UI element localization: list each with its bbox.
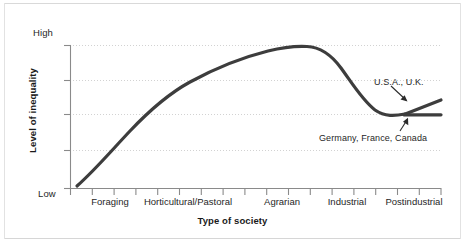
y-axis-low-label: Low xyxy=(38,188,56,199)
plot-area xyxy=(0,0,465,247)
annotation-arrow-germany-france-canada xyxy=(400,118,408,131)
x-label-horticultural-pastoral: Horticultural/Pastoral xyxy=(144,196,232,207)
series-line-usa-uk xyxy=(404,100,441,115)
chart-figure: High Low Level of inequality Foraging Ho… xyxy=(0,0,465,247)
series-label-usa-uk: U.S.A., U.K. xyxy=(374,77,424,87)
series-label-germany-france-canada: Germany, France, Canada xyxy=(319,133,427,143)
x-label-agrarian: Agrarian xyxy=(264,196,300,207)
x-label-foraging: Foraging xyxy=(91,196,129,207)
x-label-postindustrial: Postindustrial xyxy=(385,196,442,207)
annotation-arrow-usa-uk xyxy=(391,86,408,102)
y-axis-high-label: High xyxy=(33,27,53,38)
kuznets-curve xyxy=(77,46,405,186)
y-axis-title: Level of inequality xyxy=(27,51,38,171)
x-label-industrial: Industrial xyxy=(328,196,367,207)
x-axis-title: Type of society xyxy=(0,215,465,226)
